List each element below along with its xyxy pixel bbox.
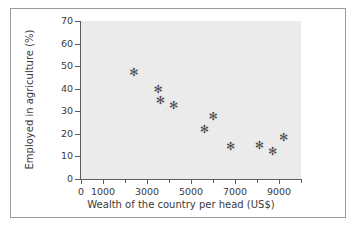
x-axis-tick-label: 7000 bbox=[215, 186, 255, 197]
data-point: ✻ bbox=[169, 101, 178, 110]
y-axis-tick bbox=[75, 134, 80, 135]
y-axis-tick bbox=[75, 111, 80, 112]
data-point: ✻ bbox=[129, 68, 138, 77]
x-axis-tick bbox=[147, 180, 148, 184]
x-axis-tick-minor bbox=[257, 180, 258, 183]
data-point: ✻ bbox=[255, 141, 264, 150]
x-axis-tick-label-wrap: 3000 bbox=[127, 186, 167, 197]
y-axis-tick-label-wrap: 70 bbox=[49, 16, 73, 26]
y-axis-tick-label-wrap: 60 bbox=[49, 39, 73, 49]
y-axis-tick-label: 70 bbox=[51, 16, 73, 26]
data-point: ✻ bbox=[156, 96, 165, 105]
y-axis-tick-label-wrap: 0 bbox=[49, 174, 73, 184]
x-axis-tick-minor bbox=[213, 180, 214, 183]
y-axis-tick-label: 50 bbox=[51, 61, 73, 71]
y-axis-tick-label-wrap: 10 bbox=[49, 151, 73, 161]
y-axis-tick bbox=[75, 44, 80, 45]
y-axis-line bbox=[80, 21, 81, 180]
x-axis-tick-label: 3000 bbox=[127, 186, 167, 197]
y-axis-tick-label: 60 bbox=[51, 39, 73, 49]
x-axis-tick bbox=[191, 180, 192, 184]
x-axis-tick-label: 5000 bbox=[171, 186, 211, 197]
y-axis-tick bbox=[75, 66, 80, 67]
data-point: ✻ bbox=[154, 85, 163, 94]
y-axis-tick-label: 40 bbox=[51, 84, 73, 94]
data-point: ✻ bbox=[279, 133, 288, 142]
data-point: ✻ bbox=[209, 112, 218, 121]
y-axis-tick-label-wrap: 50 bbox=[49, 61, 73, 71]
x-axis-tick bbox=[81, 180, 82, 184]
data-point: ✻ bbox=[226, 142, 235, 151]
data-point: ✻ bbox=[268, 147, 277, 156]
y-axis-tick bbox=[75, 156, 80, 157]
x-axis-tick bbox=[103, 180, 104, 184]
y-axis-tick-label-wrap: 20 bbox=[49, 129, 73, 139]
y-axis-tick bbox=[75, 89, 80, 90]
x-axis-tick-label-wrap: 1000 bbox=[83, 186, 123, 197]
x-axis-tick-label-wrap: 7000 bbox=[215, 186, 255, 197]
y-axis-tick bbox=[75, 21, 80, 22]
x-axis-tick-minor bbox=[301, 180, 302, 183]
y-axis-tick-label: 30 bbox=[51, 106, 73, 116]
y-axis-tick-label: 0 bbox=[51, 174, 73, 184]
x-axis-tick-label-wrap: 9000 bbox=[259, 186, 299, 197]
x-axis-tick-label: 9000 bbox=[259, 186, 299, 197]
y-axis-tick bbox=[75, 179, 80, 180]
x-axis-tick-label-wrap: 5000 bbox=[171, 186, 211, 197]
x-axis-tick-label: 1000 bbox=[83, 186, 123, 197]
figure-card: 010203040506070 010003000500070009000 ✻✻… bbox=[10, 8, 346, 218]
data-point: ✻ bbox=[200, 125, 209, 134]
y-axis-tick-label: 20 bbox=[51, 129, 73, 139]
y-axis-title: Employed in agriculture (%) bbox=[24, 25, 35, 175]
y-axis-tick-label-wrap: 40 bbox=[49, 84, 73, 94]
x-axis-tick-minor bbox=[169, 180, 170, 183]
x-axis-tick-minor bbox=[125, 180, 126, 183]
x-axis-tick bbox=[235, 180, 236, 184]
y-axis-tick-label: 10 bbox=[51, 151, 73, 161]
scatter-chart: 010203040506070 010003000500070009000 ✻✻… bbox=[11, 9, 347, 219]
x-axis-title: Wealth of the country per head (US$) bbox=[51, 199, 311, 210]
x-axis-tick bbox=[279, 180, 280, 184]
y-axis-tick-label-wrap: 30 bbox=[49, 106, 73, 116]
